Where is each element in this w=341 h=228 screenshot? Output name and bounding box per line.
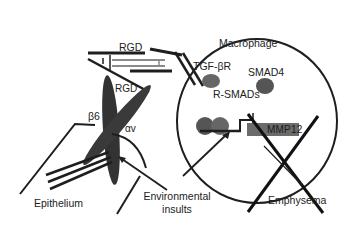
integrin-tails: [46, 152, 112, 189]
emphysema-label: Emphysema: [268, 195, 326, 206]
tgf-beta-integrin-diagram: RGD RGD β6 αv Macrophage TGF-βR SMAD4 R-…: [0, 0, 341, 228]
environmental-insults-arrows: [118, 131, 230, 190]
epithelium-label: Epithelium: [34, 198, 83, 209]
tgf-beta-r-blob: [202, 74, 220, 88]
environmental-insults-label: Environmental insults: [140, 191, 214, 214]
mmp12-label: MMP12: [267, 125, 302, 135]
environmental-insults-line1: Environmental: [140, 191, 214, 202]
macrophage-label: Macrophage: [219, 38, 277, 49]
beta6-label: β6: [88, 111, 100, 122]
environmental-insults-line2: insults: [140, 204, 214, 215]
rgd-label-integrin: RGD: [115, 84, 137, 94]
smad-complex-on-dna: [196, 113, 253, 135]
rgd-label-top: RGD: [119, 42, 142, 53]
r-smads-label: R-SMADs: [213, 89, 260, 100]
tgf-beta-r-label: TGF-βR: [193, 61, 231, 72]
alpha-v-label: αv: [125, 124, 136, 134]
smad4-label: SMAD4: [248, 67, 284, 78]
